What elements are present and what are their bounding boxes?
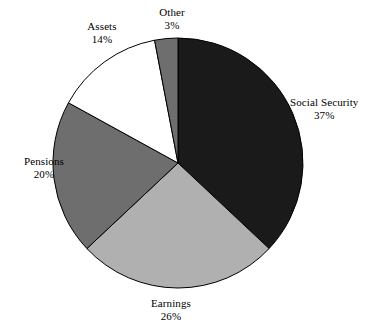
pie-chart-figure: Social Security 37% Earnings 26% Pension… bbox=[0, 0, 369, 334]
pie-label-other: Other 3% bbox=[142, 6, 202, 32]
pie-label-other-value: 3% bbox=[142, 19, 202, 32]
pie-label-assets-name: Assets bbox=[72, 20, 132, 33]
pie-label-pensions-name: Pensions bbox=[8, 155, 80, 168]
pie-label-social-security: Social Security 37% bbox=[290, 96, 358, 122]
pie-label-earnings-name: Earnings bbox=[128, 297, 214, 310]
pie-label-social-security-name: Social Security bbox=[290, 96, 358, 109]
pie-label-pensions: Pensions 20% bbox=[8, 155, 80, 181]
pie-label-assets: Assets 14% bbox=[72, 20, 132, 46]
pie-slices-group bbox=[53, 38, 303, 288]
pie-label-earnings-value: 26% bbox=[128, 310, 214, 323]
pie-label-social-security-value: 37% bbox=[290, 109, 358, 122]
pie-label-pensions-value: 20% bbox=[8, 168, 80, 181]
pie-label-assets-value: 14% bbox=[72, 33, 132, 46]
pie-label-earnings: Earnings 26% bbox=[128, 297, 214, 323]
pie-label-other-name: Other bbox=[142, 6, 202, 19]
